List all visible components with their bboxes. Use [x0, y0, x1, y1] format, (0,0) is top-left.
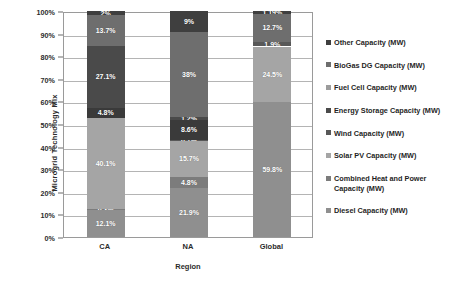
y-tick-label: 20%	[41, 188, 55, 197]
bar-segment[interactable]: 1.9%	[253, 42, 291, 46]
bar-segment-label: 40.1%	[96, 160, 116, 167]
bar-segment-label: 1.19%	[262, 11, 282, 14]
bar-segment[interactable]: 0.3%	[87, 209, 125, 210]
y-tick-label: 100%	[37, 8, 55, 17]
bar-segment-label: 8.6%	[181, 126, 197, 133]
bar-segment-label: 24.5%	[262, 71, 282, 78]
y-tick-label: 50%	[41, 121, 55, 130]
y-tick-label: 80%	[41, 53, 55, 62]
legend-item-label: Solar PV Capacity (MW)	[334, 151, 416, 161]
bar-segment[interactable]: 2%	[87, 11, 125, 16]
bar-segment-label: 59.8%	[262, 166, 282, 173]
y-tick-label: 60%	[41, 98, 55, 107]
bar-segment-label: 12.7%	[262, 24, 282, 31]
bar-segment-label: 13.7%	[96, 27, 116, 34]
y-tick-label: 70%	[41, 75, 55, 84]
y-tick-label: 10%	[41, 211, 55, 220]
legend-swatch-icon	[326, 85, 331, 90]
bar-segment-label: 12.1%	[96, 220, 116, 227]
x-tick-label-global: Global	[260, 242, 283, 251]
bar-segment[interactable]: 40.1%	[87, 118, 125, 209]
bar-column[interactable]: 59.8%24.5%1.9%12.7%1.19%	[253, 13, 291, 237]
bar-segment-label: 4.8%	[98, 109, 114, 116]
legend-swatch-icon	[326, 153, 331, 158]
legend-swatch-icon	[326, 208, 331, 213]
legend-swatch-icon	[326, 40, 331, 45]
legend-swatch-icon	[326, 176, 331, 181]
legend-item[interactable]: Wind Capacity (MW)	[326, 129, 458, 139]
legend-swatch-icon	[326, 108, 331, 113]
legend-item[interactable]: BioGas DG Capacity (MW)	[326, 61, 458, 71]
bar-segment-label: 27.1%	[96, 73, 116, 80]
bar-segment[interactable]: 1.2%	[170, 117, 208, 120]
x-axis-tick-labels: CANAGlobal	[63, 242, 313, 256]
bar-segment[interactable]: 15.7%	[170, 141, 208, 176]
bar-segment-label: 15.7%	[179, 155, 199, 162]
legend-item-label: BioGas DG Capacity (MW)	[334, 61, 425, 71]
legend-swatch-icon	[326, 130, 331, 135]
bar-series-container: 12.1%0.3%40.1%4.8%27.1%13.7%2%21.9%4.8%1…	[64, 13, 312, 237]
x-axis-title: Region	[63, 262, 313, 271]
legend-swatch-icon	[326, 62, 331, 67]
legend-item[interactable]: Diesel Capacity (MW)	[326, 206, 458, 216]
legend-item[interactable]: Fuel Cell Capacity (MW)	[326, 83, 458, 93]
bar-column[interactable]: 21.9%4.8%15.7%0.7%8.6%1.2%38%9%	[170, 13, 208, 237]
chart-legend: Other Capacity (MW)BioGas DG Capacity (M…	[326, 38, 458, 229]
y-tick-label: 0%	[45, 234, 55, 243]
x-tick-label-na: NA	[183, 242, 194, 251]
bar-segment[interactable]: 4.8%	[170, 177, 208, 188]
chart-root: Microgrid Technology Mix 0%10%20%30%40%5…	[0, 0, 460, 285]
legend-item-label: Other Capacity (MW)	[334, 38, 406, 48]
bar-column[interactable]: 12.1%0.3%40.1%4.8%27.1%13.7%2%	[87, 13, 125, 237]
bar-segment-label: 0.7%	[181, 140, 197, 142]
bar-segment[interactable]: 13.7%	[87, 15, 125, 46]
y-tick-label: 30%	[41, 166, 55, 175]
legend-item[interactable]: Combined Heat and Power Capacity (MW)	[326, 174, 458, 193]
legend-item-label: Fuel Cell Capacity (MW)	[334, 83, 417, 93]
bar-segment-label: 21.9%	[179, 209, 199, 216]
legend-item[interactable]: Solar PV Capacity (MW)	[326, 151, 458, 161]
bar-segment[interactable]: 9%	[170, 11, 208, 31]
legend-item-label: Energy Storage Capacity (MW)	[334, 106, 440, 116]
legend-item-label: Diesel Capacity (MW)	[334, 206, 408, 216]
bar-segment[interactable]: 27.1%	[87, 46, 125, 107]
bar-segment-label: 0.3%	[98, 209, 114, 210]
legend-item-label: Wind Capacity (MW)	[334, 129, 404, 139]
bar-segment[interactable]: 21.9%	[170, 188, 208, 237]
y-tick-label: 90%	[41, 30, 55, 39]
bar-segment[interactable]: 59.8%	[253, 102, 291, 237]
bar-segment-label: 2%	[101, 11, 111, 16]
bar-segment-label: 1.2%	[181, 117, 197, 120]
bar-segment[interactable]: 12.1%	[87, 210, 125, 237]
bar-segment[interactable]: 24.5%	[253, 47, 291, 102]
y-axis-tick-labels: 0%10%20%30%40%50%60%70%80%90%100%	[0, 12, 63, 238]
bar-segment-label: 1.9%	[264, 42, 280, 46]
bar-segment[interactable]: 8.6%	[170, 120, 208, 139]
y-tick-label: 40%	[41, 143, 55, 152]
plot-area: 12.1%0.3%40.1%4.8%27.1%13.7%2%21.9%4.8%1…	[63, 12, 313, 238]
legend-item[interactable]: Energy Storage Capacity (MW)	[326, 106, 458, 116]
x-tick-label-ca: CA	[99, 242, 110, 251]
bar-segment[interactable]: 0.7%	[170, 140, 208, 142]
bar-segment[interactable]: 12.7%	[253, 14, 291, 43]
bar-segment[interactable]: 38%	[170, 32, 208, 118]
bar-segment-label: 9%	[184, 18, 194, 25]
legend-item-label: Combined Heat and Power Capacity (MW)	[334, 174, 458, 193]
legend-item[interactable]: Other Capacity (MW)	[326, 38, 458, 48]
bar-segment-label: 4.8%	[181, 179, 197, 186]
bar-segment-label: 38%	[182, 71, 196, 78]
bar-segment[interactable]: 1.19%	[253, 11, 291, 14]
bar-segment[interactable]: 4.8%	[87, 108, 125, 119]
